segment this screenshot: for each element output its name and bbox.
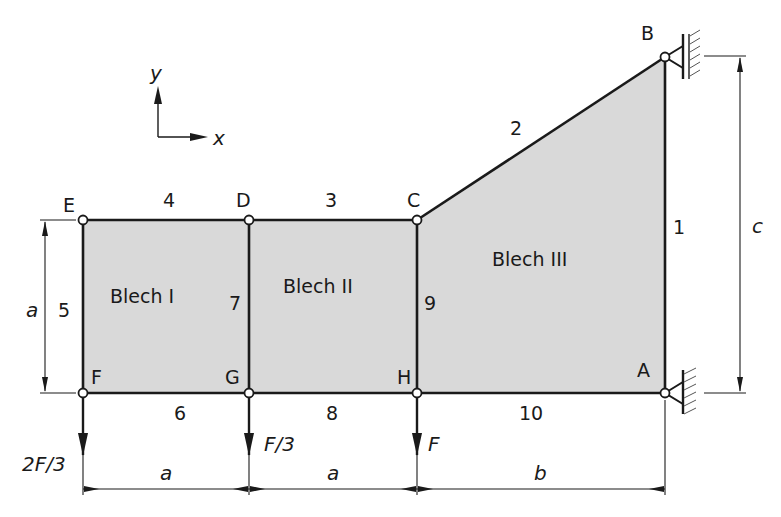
x-axis-arrow-icon: [190, 133, 208, 141]
node-label-a: A: [637, 359, 650, 381]
dim-label-a2: a: [327, 461, 339, 485]
plate-blech-ii: [249, 220, 417, 393]
joint-a: [661, 389, 670, 398]
svg-text:7: 7: [229, 292, 241, 314]
load-label-h: F: [428, 432, 440, 456]
node-label-e: E: [63, 194, 75, 216]
joint-f: [79, 389, 88, 398]
support-b: [665, 30, 700, 79]
svg-text:4: 4: [163, 189, 175, 211]
coordinate-axes: y x: [149, 61, 225, 150]
plate-label-i: Blech I: [110, 285, 174, 307]
joint-g: [245, 389, 254, 398]
plate-label-iii: Blech III: [492, 248, 567, 270]
x-axis-label: x: [212, 126, 225, 150]
svg-text:1: 1: [673, 216, 685, 238]
loads: [78, 398, 422, 456]
plate-label-ii: Blech II: [283, 275, 353, 297]
load-arrow-f: [78, 433, 88, 456]
dim-label-b: b: [534, 461, 547, 485]
load-label-g: F/3: [264, 432, 295, 456]
load-arrow-g: [244, 433, 254, 456]
plates: [83, 57, 665, 393]
truss-diagram: y x B C D E F G H A 1 2 3 4 5 6 7 8 9 10…: [0, 0, 781, 517]
node-label-b: B: [641, 22, 654, 44]
svg-text:6: 6: [174, 402, 186, 424]
load-arrow-h: [412, 433, 422, 456]
joint-e: [79, 216, 88, 225]
dim-label-left-a: a: [26, 298, 38, 322]
svg-text:10: 10: [519, 402, 543, 424]
svg-text:9: 9: [424, 292, 436, 314]
load-label-f: 2F/3: [22, 452, 66, 476]
svg-text:3: 3: [325, 189, 337, 211]
svg-text:8: 8: [326, 402, 338, 424]
svg-text:2: 2: [510, 117, 522, 139]
y-axis-label: y: [149, 61, 163, 85]
node-label-g: G: [225, 366, 240, 388]
joint-b: [661, 53, 670, 62]
dim-label-a1: a: [160, 461, 172, 485]
svg-text:5: 5: [58, 299, 70, 321]
joint-c: [413, 216, 422, 225]
node-label-c: C: [407, 189, 420, 211]
dim-label-c: c: [752, 214, 763, 238]
y-axis-arrow-icon: [154, 86, 162, 104]
joint-d: [245, 216, 254, 225]
node-label-f: F: [91, 366, 102, 388]
node-label-d: D: [236, 189, 251, 211]
joint-h: [413, 389, 422, 398]
node-label-h: H: [397, 366, 411, 388]
plate-blech-iii: [417, 57, 665, 393]
